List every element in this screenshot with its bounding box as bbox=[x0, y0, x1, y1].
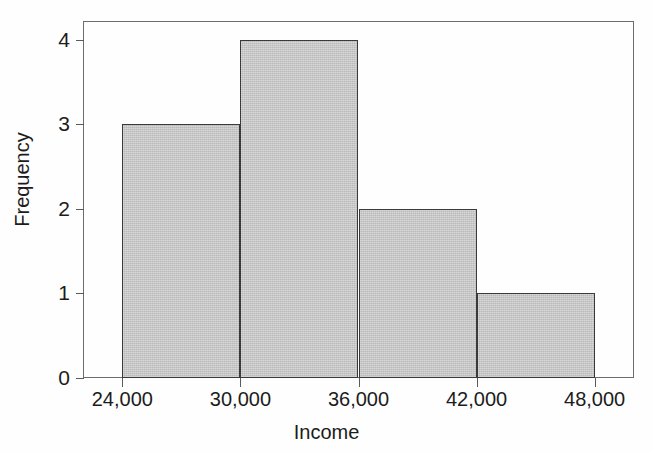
histogram-bar bbox=[122, 124, 240, 378]
y-axis-tick bbox=[76, 209, 84, 210]
x-axis-tick bbox=[477, 378, 478, 387]
x-axis-tick bbox=[122, 378, 123, 387]
y-axis-title: Frequency bbox=[11, 100, 34, 260]
x-axis-tick bbox=[240, 378, 241, 387]
y-axis-tick bbox=[76, 124, 84, 125]
histogram-bar bbox=[359, 209, 477, 378]
histogram-bar bbox=[477, 293, 595, 378]
x-axis-tick-label: 36,000 bbox=[309, 389, 409, 409]
x-axis-tick-label: 48,000 bbox=[545, 389, 645, 409]
x-axis-tick-label: 42,000 bbox=[427, 389, 527, 409]
x-axis-tick-label: 30,000 bbox=[190, 389, 290, 409]
y-axis-tick-label: 4 bbox=[40, 29, 70, 50]
y-axis-tick-label: 2 bbox=[40, 198, 70, 219]
y-axis-tick-label: 3 bbox=[40, 113, 70, 134]
bars-layer bbox=[83, 21, 634, 378]
x-axis-tick bbox=[595, 378, 596, 387]
x-axis-title: Income bbox=[0, 421, 653, 444]
y-axis-tick bbox=[76, 40, 84, 41]
histogram-figure: 43210 24,00030,00036,00042,00048,000 Fre… bbox=[0, 0, 653, 453]
y-axis-tick bbox=[76, 378, 84, 379]
x-axis-tick bbox=[359, 378, 360, 387]
x-axis-tick-label: 24,000 bbox=[72, 389, 172, 409]
histogram-bar bbox=[240, 40, 358, 378]
y-axis-tick bbox=[76, 293, 84, 294]
y-axis-tick-label: 0 bbox=[40, 367, 70, 388]
y-axis-tick-label: 1 bbox=[40, 282, 70, 303]
